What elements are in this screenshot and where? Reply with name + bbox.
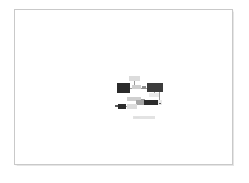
connector-9 bbox=[159, 92, 160, 100]
diagram-node-n2[interactable] bbox=[117, 83, 130, 93]
diagram-node-n3[interactable] bbox=[132, 85, 141, 89]
diagram-node-n4[interactable] bbox=[142, 86, 146, 89]
diagram-node-n10[interactable] bbox=[118, 104, 126, 109]
arrow-tick-1 bbox=[115, 105, 118, 107]
diagram-node-n5[interactable] bbox=[147, 83, 163, 92]
diagram-node-n9[interactable] bbox=[144, 100, 158, 105]
diagram-caption: Figure bbox=[133, 116, 155, 119]
diagram-node-n1[interactable] bbox=[129, 76, 140, 81]
diagram-node-n11[interactable] bbox=[127, 104, 137, 109]
document-page: Figure bbox=[14, 9, 233, 165]
screenshot-root: Figure bbox=[0, 0, 249, 183]
arrow-tick-2 bbox=[159, 103, 161, 104]
diagram-node-n6[interactable] bbox=[149, 93, 159, 97]
block-diagram: Figure bbox=[113, 76, 167, 124]
